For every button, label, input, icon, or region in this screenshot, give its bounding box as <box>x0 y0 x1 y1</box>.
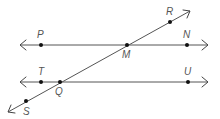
point-R <box>168 20 172 24</box>
point-U <box>186 80 190 84</box>
lower-line <box>20 77 208 87</box>
upper-line <box>20 40 208 50</box>
label-R: R <box>166 6 173 17</box>
label-S: S <box>23 106 30 117</box>
point-P <box>39 43 43 47</box>
point-Q <box>58 80 62 84</box>
parallel-lines-transversal-diagram: P M N R T Q U S <box>0 0 220 119</box>
label-P: P <box>37 29 44 40</box>
point-N <box>185 43 189 47</box>
point-T <box>39 80 43 84</box>
label-Q: Q <box>55 86 63 97</box>
point-M <box>125 43 129 47</box>
point-S <box>24 99 28 103</box>
label-M: M <box>122 49 131 60</box>
label-U: U <box>184 66 192 77</box>
label-N: N <box>183 29 191 40</box>
label-T: T <box>38 66 45 77</box>
transversal-line <box>8 10 190 113</box>
